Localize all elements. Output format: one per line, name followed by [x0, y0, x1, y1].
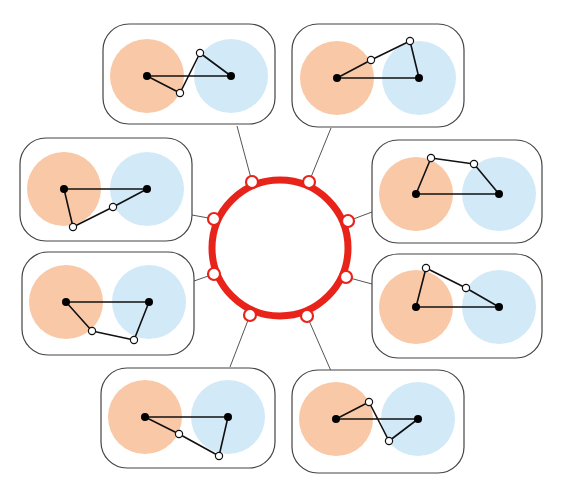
- filled-node-right: [495, 190, 503, 198]
- open-node: [196, 49, 203, 56]
- filled-node-right: [143, 185, 151, 193]
- ring-node: [246, 176, 258, 188]
- open-node: [367, 56, 374, 63]
- panel-bottom-right: [292, 370, 464, 473]
- open-node: [422, 264, 429, 271]
- filled-node-right: [224, 413, 232, 421]
- diagram-canvas: [0, 0, 567, 490]
- filled-node-left: [62, 298, 70, 306]
- filled-node-left: [60, 185, 68, 193]
- open-node: [470, 160, 477, 167]
- filled-node-left: [412, 190, 420, 198]
- filled-node-right: [145, 298, 153, 306]
- central-ring: [208, 176, 354, 322]
- filled-node-right: [227, 72, 235, 80]
- filled-node-right: [415, 74, 423, 82]
- open-node: [88, 327, 95, 334]
- panel-middle-right-upper: [372, 140, 542, 243]
- ring-node: [340, 271, 352, 283]
- ring-node: [342, 215, 354, 227]
- open-node: [109, 203, 116, 210]
- connector-line: [230, 315, 250, 367]
- open-node: [215, 452, 222, 459]
- ring-circle: [212, 180, 348, 316]
- panels-group: [20, 24, 542, 473]
- open-node: [130, 336, 137, 343]
- filled-node-left: [412, 303, 420, 311]
- open-node: [427, 154, 434, 161]
- open-node: [175, 430, 182, 437]
- ring-node: [301, 310, 313, 322]
- ring-node: [303, 176, 315, 188]
- open-node: [406, 37, 413, 44]
- filled-node-left: [332, 415, 340, 423]
- panel-bottom-left: [101, 368, 275, 468]
- open-node: [176, 89, 183, 96]
- ring-node: [244, 309, 256, 321]
- filled-node-left: [333, 74, 341, 82]
- open-node: [462, 284, 469, 291]
- ring-node: [208, 213, 220, 225]
- filled-node-right: [414, 415, 422, 423]
- connector-line: [307, 316, 331, 371]
- filled-node-right: [495, 303, 503, 311]
- panel-middle-left-upper: [20, 138, 192, 241]
- ring-of-panels-diagram: [0, 0, 567, 490]
- open-node: [365, 398, 372, 405]
- panel-middle-right-lower: [372, 254, 542, 358]
- connector-line: [237, 126, 252, 182]
- panel-top-left: [103, 24, 275, 124]
- panel-top-right: [292, 24, 464, 127]
- filled-node-left: [143, 72, 151, 80]
- panel-middle-left-lower: [22, 252, 194, 355]
- open-node: [385, 437, 392, 444]
- open-node: [69, 223, 76, 230]
- filled-node-left: [141, 413, 149, 421]
- connector-line: [309, 128, 331, 182]
- ring-node: [208, 268, 220, 280]
